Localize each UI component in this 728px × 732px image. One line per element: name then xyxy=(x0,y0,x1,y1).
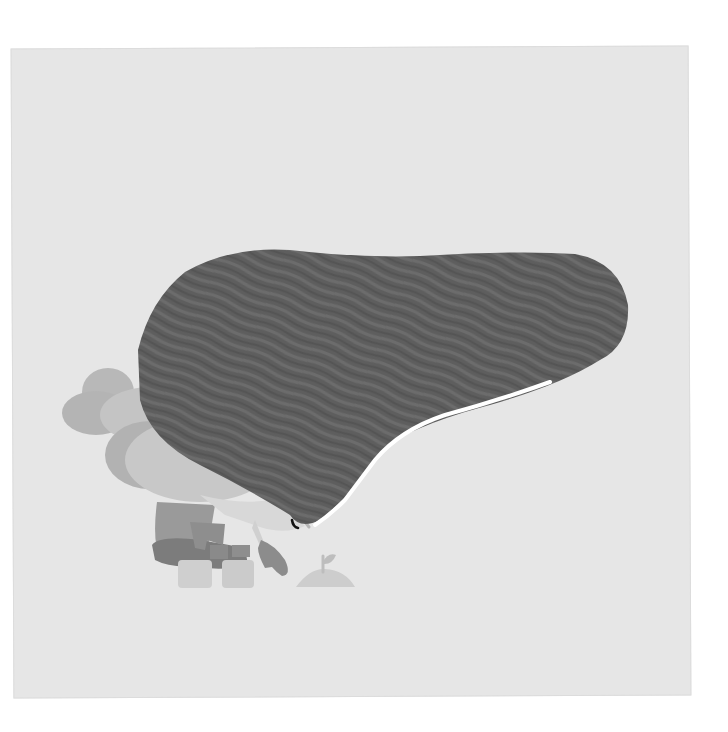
illustration xyxy=(0,0,728,732)
sprout-mound xyxy=(296,554,355,587)
